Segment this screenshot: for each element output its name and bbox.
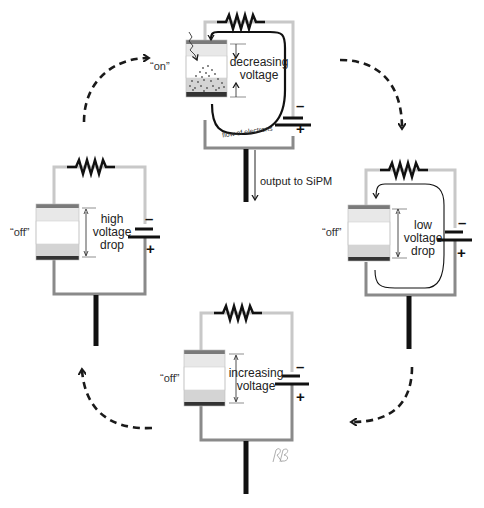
output-label: output to SiPM xyxy=(260,175,332,188)
state-label-left: “off” xyxy=(10,226,29,238)
voltage-label-line3: drop xyxy=(86,239,138,252)
battery-minus-left: – xyxy=(145,210,153,227)
voltage-label-top: decreasing voltage xyxy=(227,56,291,82)
battery-minus-right: – xyxy=(458,214,466,231)
state-label-top: “on” xyxy=(150,60,170,72)
voltage-label-bottom: increasing voltage xyxy=(226,367,286,393)
voltage-label-line2: voltage xyxy=(227,69,291,82)
state-label-right: “off” xyxy=(322,226,341,238)
battery-minus-top: – xyxy=(296,97,304,114)
voltage-label-line3: drop xyxy=(401,245,445,258)
battery-plus-right: + xyxy=(457,244,466,261)
battery-minus-bottom: – xyxy=(296,358,304,375)
battery-plus-left: + xyxy=(146,240,155,257)
arrow-top-to-right xyxy=(340,60,402,128)
battery-plus-bottom: + xyxy=(296,388,305,405)
circuit-left xyxy=(36,160,160,346)
voltage-label-line2: voltage xyxy=(226,380,286,393)
circuit-top xyxy=(186,15,311,202)
battery-plus-top: + xyxy=(296,120,305,137)
circuit-bottom xyxy=(184,306,309,494)
arrow-left-to-top xyxy=(84,58,148,122)
signature-mark xyxy=(273,449,288,462)
arrow-bottom-to-left xyxy=(82,370,152,428)
voltage-label-left: high voltage drop xyxy=(86,213,138,252)
voltage-label-right: low voltage drop xyxy=(401,219,445,258)
arrow-right-to-bottom xyxy=(352,367,412,422)
state-label-bottom: “off” xyxy=(160,372,179,384)
